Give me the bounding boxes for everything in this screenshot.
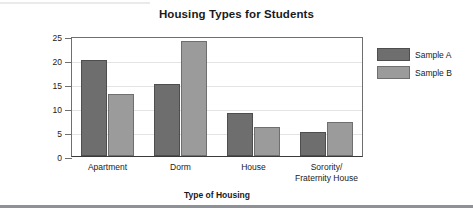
y-axis-tick-label: 5 [57, 129, 62, 139]
y-axis-tick-label: 0 [57, 153, 62, 163]
chart-title: Housing Types for Students [0, 8, 473, 20]
gridline [72, 86, 362, 87]
y-axis-tick-label: 10 [53, 105, 62, 115]
y-axis-tick [65, 110, 72, 111]
legend-swatch-sample-a [377, 48, 410, 61]
plot-area: 0510152025 [71, 37, 363, 157]
bottom-divider [0, 205, 473, 208]
x-axis-category-label: Dorm [144, 162, 217, 173]
bar-sample-b-1 [181, 41, 207, 156]
legend-swatch-sample-b [377, 66, 410, 79]
y-axis-tick [65, 86, 72, 87]
x-axis-category-label: Sorority/ Fraternity House [290, 162, 363, 184]
legend-item-sample-a[interactable]: Sample A [377, 48, 452, 61]
y-axis-tick-label: 20 [53, 57, 62, 67]
bar-sample-a-1 [154, 84, 180, 156]
bar-sample-b-3 [327, 122, 353, 156]
legend-item-sample-b[interactable]: Sample B [377, 66, 452, 79]
x-axis-label: Type of Housing [71, 190, 363, 200]
y-axis-tick-label: 15 [53, 81, 62, 91]
y-axis-tick [65, 38, 72, 39]
bar-sample-a-0 [81, 60, 107, 156]
y-axis-tick [65, 134, 72, 135]
y-axis-tick-label: 25 [53, 33, 62, 43]
legend-label-sample-b: Sample B [415, 68, 452, 78]
bar-sample-a-2 [227, 113, 253, 156]
y-axis-tick [65, 62, 72, 63]
legend-label-sample-a: Sample A [415, 50, 451, 60]
bar-sample-b-0 [108, 94, 134, 156]
x-axis-category-label: Apartment [71, 162, 144, 173]
gridline [72, 62, 362, 63]
y-axis-tick [65, 158, 72, 159]
chart-legend: Sample A Sample B [377, 48, 452, 84]
bar-sample-b-2 [254, 127, 280, 156]
top-divider [0, 2, 150, 4]
bar-sample-a-3 [300, 132, 326, 156]
x-axis-category-label: House [217, 162, 290, 173]
chart-figure: Housing Types for Students Number of Stu… [0, 0, 473, 217]
